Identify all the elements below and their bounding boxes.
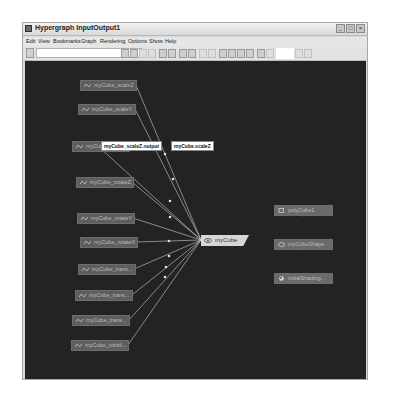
- toolbar-spacer: [276, 48, 294, 59]
- graph-node-input[interactable]: myCube_scaleY: [78, 104, 136, 115]
- graph-node-input[interactable]: myCube_trans...: [72, 315, 130, 326]
- maximize-button[interactable]: □: [346, 24, 355, 33]
- graph-node-input[interactable]: myCube_visibil...: [71, 340, 129, 351]
- tooltip-source-attribute: myCube_scaleZ.output: [101, 141, 162, 151]
- graph-down-icon[interactable]: [168, 49, 176, 58]
- menu-help[interactable]: Help: [165, 38, 176, 44]
- menu-show[interactable]: Show: [149, 38, 163, 44]
- close-button[interactable]: ×: [356, 24, 365, 33]
- input-connections-icon[interactable]: [228, 49, 236, 58]
- clear-view-icon[interactable]: [246, 49, 254, 58]
- graph-node-input[interactable]: myCube_trans...: [78, 264, 136, 275]
- node-label: polyCube1: [288, 207, 314, 213]
- window-title: Hypergraph InputOutput1: [35, 24, 120, 31]
- graph-up-icon[interactable]: [159, 49, 167, 58]
- dependency-graph-icon[interactable]: [199, 49, 207, 58]
- anim-curve-icon: [84, 83, 91, 88]
- graph-node-output[interactable]: polyCube1: [274, 205, 333, 216]
- node-label: initialShading...: [288, 275, 325, 281]
- anim-curve-icon: [79, 293, 86, 298]
- menu-options[interactable]: Options: [128, 38, 147, 44]
- anim-curve-icon: [75, 343, 82, 348]
- graph-node-input[interactable]: myCube_scale2: [80, 80, 137, 91]
- menu-rendering[interactable]: Rendering: [100, 38, 125, 44]
- anim-curve-icon: [76, 144, 83, 149]
- hypergraph-window: Hypergraph InputOutput1 _ □ × Edit View …: [22, 22, 368, 380]
- list-icon[interactable]: [266, 49, 274, 58]
- frame-selection-icon[interactable]: [130, 49, 138, 58]
- graph-node-output[interactable]: initialShading...: [274, 273, 333, 284]
- menu-edit[interactable]: Edit: [26, 38, 35, 44]
- node-label: myCube_visibil...: [85, 342, 127, 348]
- anim-curve-icon: [84, 240, 91, 245]
- node-label: myCube: [215, 235, 237, 246]
- next-view-icon[interactable]: [148, 49, 156, 58]
- node-label: myCube_rotateZ: [90, 179, 131, 185]
- title-bar[interactable]: Hypergraph InputOutput1 _ □ ×: [23, 23, 367, 36]
- graph-node-input[interactable]: myCube_rotateY: [77, 213, 135, 224]
- bookmark-icon[interactable]: [179, 49, 187, 58]
- create-bookmark-icon[interactable]: [188, 49, 196, 58]
- layout-grid-icon[interactable]: [304, 49, 312, 58]
- transform-icon: [204, 238, 212, 243]
- scene-hierarchy-icon[interactable]: [208, 49, 216, 58]
- node-label: myCubeShape: [288, 241, 324, 247]
- poly-cube-icon: [278, 208, 285, 213]
- layout-simple-icon[interactable]: [295, 49, 303, 58]
- node-label: myCube_rotateX: [94, 239, 135, 245]
- graph-canvas[interactable]: myCube_scale2 myCube_scaleY myCube_scale…: [25, 61, 366, 379]
- graph-node-input[interactable]: myCube_trans...: [75, 290, 133, 301]
- anim-curve-icon: [80, 180, 87, 185]
- node-label: myCube_trans...: [89, 292, 129, 298]
- node-label: myCube_trans...: [86, 317, 126, 323]
- toolbar: [23, 47, 367, 61]
- menu-graph[interactable]: Graph: [81, 38, 96, 44]
- anim-curve-icon: [82, 107, 89, 112]
- input-output-connections-icon[interactable]: [219, 49, 227, 58]
- swatch-icon[interactable]: [257, 49, 265, 58]
- minimize-button[interactable]: _: [336, 24, 345, 33]
- output-connections-icon[interactable]: [237, 49, 245, 58]
- node-label: myCube_trans...: [92, 266, 132, 272]
- previous-view-icon[interactable]: [139, 49, 147, 58]
- toggle-toolbar-icon[interactable]: [26, 48, 34, 58]
- anim-curve-icon: [76, 318, 83, 323]
- app-icon: [25, 25, 32, 32]
- frame-all-icon[interactable]: [121, 49, 129, 58]
- node-label: myCube_rotateY: [91, 215, 132, 221]
- graph-node-output[interactable]: myCubeShape: [274, 239, 333, 250]
- menu-view[interactable]: View: [38, 38, 50, 44]
- shape-icon: [278, 242, 285, 247]
- graph-node-input[interactable]: myCube_rotateZ: [76, 177, 134, 188]
- node-label: myCube_scaleY: [92, 106, 132, 112]
- shading-group-icon: [278, 276, 285, 281]
- graph-node-input[interactable]: myCube_rotateX: [80, 237, 138, 248]
- anim-curve-icon: [81, 216, 88, 221]
- menu-bookmarks[interactable]: Bookmarks: [53, 38, 81, 44]
- node-label: myCube_scale2: [94, 82, 133, 88]
- graph-node-myCube[interactable]: myCube: [201, 235, 249, 246]
- tooltip-destination-attribute: myCube.scaleZ: [171, 141, 214, 151]
- anim-curve-icon: [82, 267, 89, 272]
